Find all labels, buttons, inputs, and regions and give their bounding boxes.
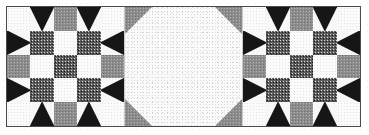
center-octagon-panel (124, 7, 243, 126)
patch-r5c1-white (7, 102, 30, 126)
patch-r2c2-speckle (30, 31, 53, 55)
patch-r5c1-white (243, 102, 266, 126)
patch-r5c2-geese-down (266, 102, 289, 126)
patch-r4c4-speckle (313, 78, 336, 102)
patch-r1c4-geese-up (77, 7, 100, 31)
patch-r4c2-speckle (266, 78, 289, 102)
right-star-block (243, 7, 360, 126)
patch-r3c3-speckle (54, 55, 77, 79)
patch-r2c1-geese-left (7, 31, 30, 55)
octagon-shape (124, 7, 243, 126)
patch-r3c5-gray (337, 55, 360, 79)
quilt-body (7, 7, 360, 126)
patch-r3c3-speckle (290, 55, 313, 79)
seam-right (242, 7, 243, 126)
patch-r3c1-gray (243, 55, 266, 79)
patch-r2c5-geese-right (337, 31, 360, 55)
patch-r2c4-speckle (313, 31, 336, 55)
patch-r1c1-white (243, 7, 266, 31)
patch-r4c1-geese-left (7, 78, 30, 102)
patch-r1c3-gray (290, 7, 313, 31)
patch-r4c1-geese-left (243, 78, 266, 102)
patch-r4c2-speckle (30, 78, 53, 102)
quilt-figure (0, 0, 369, 135)
quilt-panel (6, 6, 361, 127)
patch-r5c4-geese-down (313, 102, 336, 126)
left-star-block (7, 7, 124, 126)
patch-r3c4-white (313, 55, 336, 79)
patch-r3c2-white (30, 55, 53, 79)
patch-r5c4-geese-down (77, 102, 100, 126)
patch-r2c2-speckle (266, 31, 289, 55)
patch-r3c1-gray (7, 55, 30, 79)
patch-r4c3-white (54, 78, 77, 102)
patch-r4c4-speckle (77, 78, 100, 102)
patch-r5c3-gray (54, 102, 77, 126)
patch-r1c1-white (7, 7, 30, 31)
patch-r4c5-geese-right (337, 78, 360, 102)
patch-r1c3-gray (54, 7, 77, 31)
patch-r5c5-white (101, 102, 124, 126)
patch-r4c5-geese-right (101, 78, 124, 102)
patch-r2c1-geese-left (243, 31, 266, 55)
patch-r1c5-white (101, 7, 124, 31)
patch-r4c3-white (290, 78, 313, 102)
patch-r5c5-white (337, 102, 360, 126)
patch-r3c4-white (77, 55, 100, 79)
seam-left (124, 7, 125, 126)
patch-r2c4-speckle (77, 31, 100, 55)
patch-r1c5-white (337, 7, 360, 31)
patch-r2c3-white (290, 31, 313, 55)
patch-r1c4-geese-up (313, 7, 336, 31)
patch-r1c2-geese-up (30, 7, 53, 31)
patch-r5c3-gray (290, 102, 313, 126)
patch-r3c2-white (266, 55, 289, 79)
patch-r5c2-geese-down (30, 102, 53, 126)
patch-r2c5-geese-right (101, 31, 124, 55)
patch-r3c5-gray (101, 55, 124, 79)
patch-r1c2-geese-up (266, 7, 289, 31)
patch-r2c3-white (54, 31, 77, 55)
